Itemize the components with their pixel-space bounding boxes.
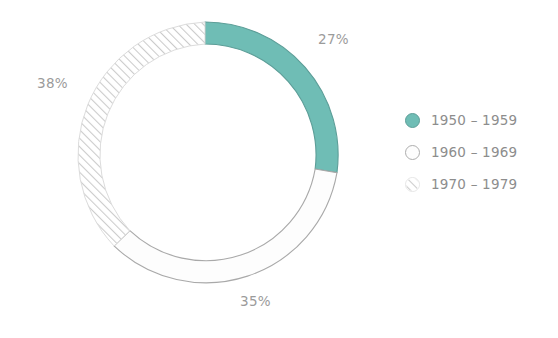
donut-slice-1970s — [78, 22, 205, 246]
legend-item-1960s[interactable]: 1960 – 1969 — [405, 136, 550, 168]
legend-label-1960s: 1960 – 1969 — [431, 144, 517, 160]
data-label-1950s: 27% — [318, 31, 349, 47]
legend-marker-hatched-circle-icon — [405, 177, 420, 192]
donut-slice-1960s — [114, 169, 337, 283]
donut-chart-figure: 27% 38% 35% 1950 – 1959 1960 – 1969 1970… — [0, 0, 558, 338]
chart-legend: 1950 – 1959 1960 – 1969 1970 – 1979 — [405, 104, 550, 200]
data-label-1960s: 35% — [240, 293, 271, 309]
legend-item-1970s[interactable]: 1970 – 1979 — [405, 168, 550, 200]
data-label-1970s: 38% — [37, 75, 68, 91]
legend-marker-outline-circle-icon — [405, 145, 420, 160]
legend-label-1950s: 1950 – 1959 — [431, 112, 517, 128]
legend-marker-filled-circle-icon — [405, 113, 420, 128]
legend-label-1970s: 1970 – 1979 — [431, 176, 517, 192]
legend-item-1950s[interactable]: 1950 – 1959 — [405, 104, 550, 136]
